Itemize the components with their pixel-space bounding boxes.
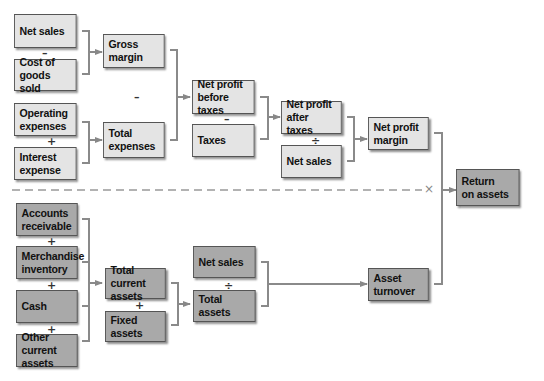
box-return-on-assets: Return on assets: [456, 169, 519, 206]
box-label: Net sales: [199, 256, 244, 269]
box-label: Taxes: [198, 134, 226, 147]
box-label: Interest expense: [20, 151, 61, 177]
box-total-assets: Total assets: [193, 290, 256, 322]
box-net-profit-before-taxes: Net profit before taxes: [192, 80, 255, 114]
box-net-profit-after-taxes: Net profit after taxes: [281, 101, 342, 134]
box-label: Total assets: [199, 293, 251, 319]
box-operating-expenses: Operating expenses: [14, 103, 77, 136]
box-net-profit-margin: Net profit margin: [368, 117, 429, 150]
box-accounts-receivable: Accounts receivable: [16, 203, 78, 236]
operator-plus: +: [47, 136, 56, 147]
box-label: Total expenses: [109, 127, 156, 153]
box-total-current-assets: Total current assets: [105, 268, 166, 299]
box-label: Net sales: [20, 25, 65, 38]
box-cost-of-goods-sold: Cost of goods sold: [14, 59, 77, 91]
box-merchandise-inventory: Merchandise inventory: [16, 246, 78, 279]
return-on-assets-diagram: × Net sales – Cost of goods sold Operati…: [0, 0, 544, 381]
box-label: Total current assets: [111, 264, 161, 303]
box-label: Cost of goods sold: [20, 56, 72, 95]
box-label: Return on assets: [462, 175, 509, 201]
box-label: Merchandise inventory: [22, 250, 85, 276]
box-net-sales-3: Net sales: [193, 246, 256, 278]
box-total-expenses: Total expenses: [103, 122, 165, 158]
box-net-sales: Net sales: [14, 14, 77, 48]
box-label: Accounts receivable: [22, 207, 72, 233]
box-label: Cash: [22, 300, 47, 313]
box-label: Gross margin: [109, 38, 143, 64]
box-label: Fixed assets: [111, 314, 161, 340]
box-label: Net profit after taxes: [287, 98, 337, 137]
box-cash: Cash: [16, 290, 78, 323]
box-label: Net sales: [287, 155, 332, 168]
operator-minus: –: [134, 92, 140, 103]
box-net-sales-2: Net sales: [281, 145, 342, 178]
box-interest-expense: Interest expense: [14, 147, 77, 180]
box-label: Net profit before taxes: [198, 78, 250, 117]
box-gross-margin: Gross margin: [103, 34, 165, 68]
box-asset-turnover: Asset turnover: [368, 268, 429, 301]
box-other-current-assets: Other current assets: [16, 334, 78, 367]
divider-x-marker: ×: [424, 184, 434, 195]
operator-plus: +: [135, 300, 144, 311]
box-label: Operating expenses: [20, 107, 68, 133]
box-label: Asset turnover: [374, 272, 415, 298]
box-label: Other current assets: [22, 331, 73, 370]
box-taxes: Taxes: [192, 124, 255, 157]
box-fixed-assets: Fixed assets: [105, 311, 166, 342]
box-label: Net profit margin: [374, 121, 419, 147]
